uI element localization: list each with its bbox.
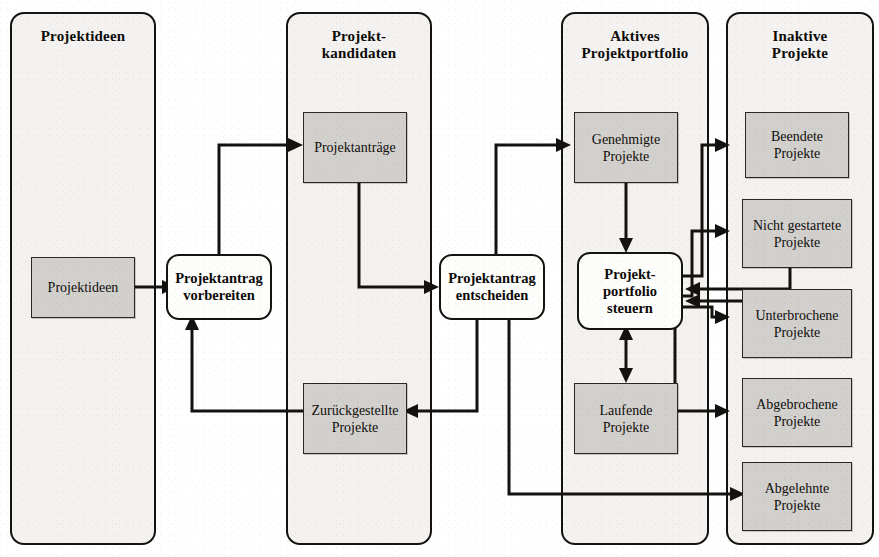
lane-title-projektkandidaten-line2: kandidaten [288,45,430,62]
node-unterbrochene-line2: Projekte [751,324,842,341]
node-unterbrochene-projekte[interactable]: Unterbrochene Projekte [742,289,852,358]
node-laufende-line2: Projekte [596,419,657,436]
node-nicht-gestartete-line1: Nicht gestartete [749,217,845,234]
activity-projektantrag-entscheiden[interactable]: Projektantrag entscheiden [439,254,545,320]
node-abgelehnte-line1: Abgelehnte [761,480,834,497]
diagram-canvas: Projektideen Projekt- kandidaten Aktives… [0,0,879,557]
activity-projektportfolio-steuern[interactable]: Projekt- portfolio steuern [577,252,683,330]
node-laufende-line1: Laufende [596,402,657,419]
node-projektantraege-label: Projektanträge [310,139,400,156]
lane-title-projektkandidaten-line1: Projekt- [288,28,430,45]
node-beendete-projekte[interactable]: Beendete Projekte [745,112,849,178]
node-projektideen-label: Projektideen [44,279,123,296]
node-abgebrochene-projekte[interactable]: Abgebrochene Projekte [742,378,852,447]
node-abgebrochene-line2: Projekte [752,413,842,430]
activity-antrag-vorbereiten-line1: Projektantrag [171,270,267,287]
node-projektantraege[interactable]: Projektanträge [303,112,407,183]
node-nicht-gestartete-projekte[interactable]: Nicht gestartete Projekte [742,199,852,268]
lane-projektkandidaten: Projekt- kandidaten [286,12,432,545]
node-unterbrochene-line1: Unterbrochene [751,307,842,324]
activity-portfolio-steuern-line3: steuern [599,300,661,317]
node-genehmigte-line1: Genehmigte [588,131,664,148]
lane-title-inaktive-projekte-line1: Inaktive [728,28,872,45]
connector-antrag-entscheiden-to-genehmigte [496,138,571,255]
node-zurueckgestellte-projekte[interactable]: Zurückgestellte Projekte [303,383,407,454]
node-zurueckgestellte-line1: Zurückgestellte [307,402,402,419]
node-abgelehnte-line2: Projekte [761,497,834,514]
node-zurueckgestellte-line2: Projekte [307,419,402,436]
activity-portfolio-steuern-line2: portfolio [599,283,661,300]
activity-antrag-entscheiden-line1: Projektantrag [444,270,540,287]
node-genehmigte-projekte[interactable]: Genehmigte Projekte [574,112,678,183]
activity-projektantrag-vorbereiten[interactable]: Projektantrag vorbereiten [166,254,272,320]
lane-title-aktives-portfolio-line1: Aktives [563,28,707,45]
node-projektideen[interactable]: Projektideen [31,257,135,318]
activity-antrag-entscheiden-line2: entscheiden [444,287,540,304]
node-beendete-line1: Beendete [767,128,827,145]
lane-title-projektideen: Projektideen [12,28,154,45]
node-beendete-line2: Projekte [767,145,827,162]
lane-title-aktives-portfolio-line2: Projektportfolio [563,45,707,62]
activity-portfolio-steuern-line1: Projekt- [599,266,661,283]
node-genehmigte-line2: Projekte [588,148,664,165]
node-abgebrochene-line1: Abgebrochene [752,396,842,413]
node-laufende-projekte[interactable]: Laufende Projekte [574,383,678,454]
node-nicht-gestartete-line2: Projekte [749,234,845,251]
activity-antrag-vorbereiten-line2: vorbereiten [171,287,267,304]
node-abgelehnte-projekte[interactable]: Abgelehnte Projekte [742,462,852,531]
lane-title-inaktive-projekte-line2: Projekte [728,45,872,62]
